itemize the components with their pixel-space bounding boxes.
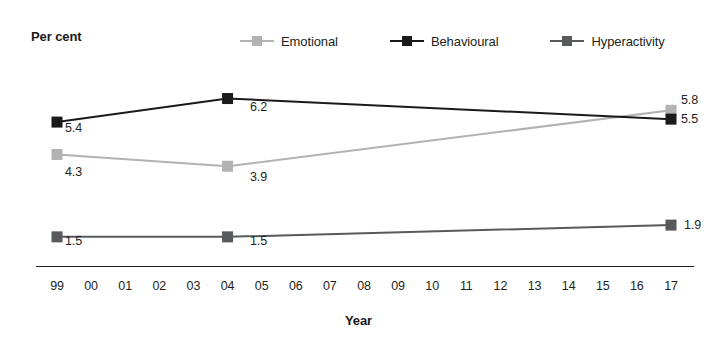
x-tick-label-02: 02 — [144, 279, 174, 293]
x-tick-label-00: 00 — [76, 279, 106, 293]
point-label-hyperactivity-99: 1.5 — [65, 234, 82, 248]
point-label-hyperactivity-17: 1.9 — [684, 218, 701, 232]
x-tick-label-01: 01 — [110, 279, 140, 293]
data-point-emotional-99[interactable] — [52, 149, 63, 160]
point-label-hyperactivity-04: 1.5 — [250, 234, 267, 248]
x-tick-label-10: 10 — [417, 279, 447, 293]
x-tick-label-16: 16 — [622, 279, 652, 293]
line-chart: Per cent Emotional Behavioural — [0, 0, 717, 348]
x-axis-tick-labels: 99000102030405060708091011121314151617 — [0, 279, 717, 297]
x-tick-label-04: 04 — [213, 279, 243, 293]
x-tick-label-13: 13 — [520, 279, 550, 293]
data-point-behavioural-99[interactable] — [52, 117, 63, 128]
x-axis-title: Year — [0, 313, 717, 328]
series-line-hyperactivity — [57, 225, 671, 237]
point-label-emotional-04: 3.9 — [250, 170, 267, 184]
x-tick-label-12: 12 — [485, 279, 515, 293]
x-tick-label-99: 99 — [42, 279, 72, 293]
series-line-behavioural — [57, 99, 671, 123]
data-point-emotional-04[interactable] — [222, 161, 233, 172]
x-tick-label-08: 08 — [349, 279, 379, 293]
x-tick-label-06: 06 — [281, 279, 311, 293]
x-tick-label-17: 17 — [656, 279, 686, 293]
point-label-behavioural-99: 5.4 — [65, 121, 82, 135]
series-layer — [52, 93, 677, 242]
point-label-behavioural-04: 6.2 — [250, 100, 267, 114]
data-point-hyperactivity-17[interactable] — [666, 220, 677, 231]
x-tick-label-05: 05 — [247, 279, 277, 293]
x-tick-label-03: 03 — [178, 279, 208, 293]
x-tick-label-15: 15 — [588, 279, 618, 293]
data-point-behavioural-04[interactable] — [222, 93, 233, 104]
data-point-hyperactivity-99[interactable] — [52, 231, 63, 242]
x-tick-label-11: 11 — [451, 279, 481, 293]
point-label-emotional-17: 5.8 — [681, 93, 698, 107]
data-point-hyperactivity-04[interactable] — [222, 231, 233, 242]
x-tick-label-07: 07 — [315, 279, 345, 293]
point-label-behavioural-17: 5.5 — [681, 112, 698, 126]
x-tick-label-14: 14 — [554, 279, 584, 293]
x-tick-label-09: 09 — [383, 279, 413, 293]
point-label-emotional-99: 4.3 — [65, 165, 82, 179]
series-line-emotional — [57, 110, 671, 166]
data-point-behavioural-17[interactable] — [666, 114, 677, 125]
series-hyperactivity — [52, 220, 677, 243]
